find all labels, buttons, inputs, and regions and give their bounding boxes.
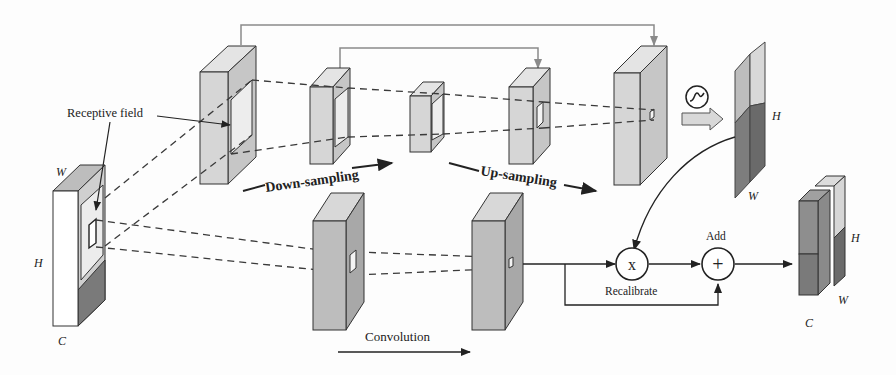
recalibrate-multiply-node: x	[616, 248, 648, 280]
skip-connection-outer	[241, 25, 654, 45]
diagram-canvas: W H C	[0, 0, 896, 375]
add-label: Add	[706, 230, 726, 242]
sigmoid-icon	[686, 86, 708, 108]
output-width-label: W	[838, 293, 849, 307]
decoder-block-1	[509, 68, 550, 164]
convolution-block-1	[313, 193, 364, 330]
decoder-block-2	[614, 46, 667, 185]
input-feature-block	[53, 165, 105, 326]
recalibrate-label: Recalibrate	[605, 285, 657, 297]
down-sampling-label: Down-sampling	[264, 167, 359, 195]
sigmoid-arrow	[682, 108, 723, 130]
receptive-field-label: Receptive field	[67, 106, 144, 120]
convolution-block-2	[472, 193, 523, 330]
up-sampling-label: Up-sampling	[480, 163, 558, 190]
multiply-symbol: x	[628, 256, 636, 273]
attention-map	[735, 42, 765, 198]
add-symbol: +	[712, 253, 723, 275]
attention-height-label: H	[771, 109, 782, 123]
output-channel-label: C	[805, 316, 814, 330]
input-channel-label: C	[58, 334, 67, 348]
add-node: +	[702, 248, 734, 280]
receptive-field-projections	[96, 80, 654, 275]
skip-connection-inner	[340, 48, 538, 68]
bottleneck-block	[410, 82, 444, 152]
attention-width-label: W	[748, 189, 759, 203]
input-width-label: W	[56, 165, 67, 179]
main-flow-lines	[523, 264, 792, 305]
output-feature-block	[799, 176, 845, 295]
convolution-label: Convolution	[365, 329, 431, 344]
input-height-label: H	[33, 256, 44, 270]
encoder-block-2	[310, 68, 350, 164]
output-height-label: H	[850, 231, 861, 245]
